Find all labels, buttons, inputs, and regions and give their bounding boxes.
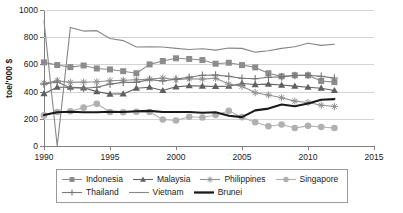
y-tick-label: 200 — [24, 114, 38, 124]
legend-label: Brunei — [218, 187, 243, 198]
y-tick-label: 0 — [33, 141, 38, 151]
x-tick-mark — [374, 146, 375, 150]
legend-label: Thailand — [86, 187, 119, 198]
x-tick-mark — [176, 146, 177, 150]
chart-legend: IndonesiaMalaysiaPhilippinesSingapore Th… — [56, 169, 348, 203]
legend-item-thailand[interactable]: Thailand — [61, 187, 119, 198]
legend-item-brunei[interactable]: Brunei — [193, 187, 243, 198]
x-tick-label: 2010 — [299, 152, 318, 162]
x-axis-line — [44, 146, 374, 147]
legend-label: Indonesia — [86, 174, 123, 185]
legend-marker-triangle-icon — [132, 174, 154, 185]
legend-row: ThailandVietnamBrunei — [61, 186, 343, 199]
y-tick-label: 800 — [24, 32, 38, 42]
y-axis-title: toe/'000 $ — [2, 38, 16, 118]
plot-area: 02004006008001000 1990199520002005201020… — [44, 10, 374, 146]
legend-row: IndonesiaMalaysiaPhilippinesSingapore — [61, 173, 343, 186]
legend-label: Singapore — [300, 174, 339, 185]
series-layer — [44, 10, 374, 146]
x-tick-mark — [242, 146, 243, 150]
legend-item-indonesia[interactable]: Indonesia — [61, 174, 123, 185]
legend-marker-circle-icon — [275, 174, 297, 185]
x-tick-label: 2000 — [167, 152, 186, 162]
legend-marker-square-icon — [61, 174, 83, 185]
y-tick-label: 1000 — [19, 5, 38, 15]
chart-figure: toe/'000 $ 02004006008001000 19901995200… — [0, 0, 403, 213]
y-tick-label: 600 — [24, 59, 38, 69]
x-tick-label: 2015 — [365, 152, 384, 162]
x-tick-mark — [110, 146, 111, 150]
legend-label: Malaysia — [157, 174, 191, 185]
legend-marker-asterisk-icon — [199, 174, 221, 185]
legend-marker-none-bold-icon — [193, 187, 215, 198]
legend-item-vietnam[interactable]: Vietnam — [128, 187, 184, 198]
x-tick-label: 2005 — [233, 152, 252, 162]
x-tick-label: 1990 — [35, 152, 54, 162]
legend-item-singapore[interactable]: Singapore — [275, 174, 339, 185]
legend-marker-none-icon — [128, 187, 150, 198]
x-tick-mark — [44, 146, 45, 150]
x-tick-label: 1995 — [101, 152, 120, 162]
legend-label: Vietnam — [153, 187, 184, 198]
x-tick-mark — [308, 146, 309, 150]
y-tick-label: 400 — [24, 87, 38, 97]
legend-item-philippines[interactable]: Philippines — [199, 174, 265, 185]
legend-label: Philippines — [224, 174, 265, 185]
legend-item-malaysia[interactable]: Malaysia — [132, 174, 191, 185]
legend-marker-plus-icon — [61, 187, 83, 198]
